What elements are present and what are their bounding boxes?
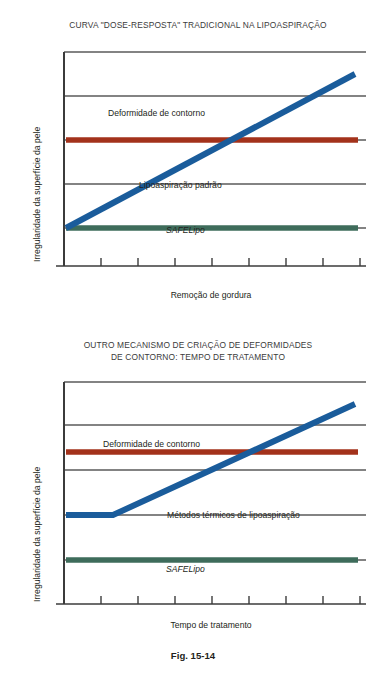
chart-panel-dose-response: CURVA "DOSE-RESPOSTA" TRADICIONAL NA LIP… [0,0,386,318]
series-label-safelipo: SAFELipo [166,564,205,574]
chart-panel-treatment-time: OUTRO MECANISMO DE CRIAÇÃO DE DEFORMIDAD… [0,320,386,680]
chart-title: CURVA "DOSE-RESPOSTA" TRADICIONAL NA LIP… [28,20,368,32]
series-line-standard-liposuction [66,74,355,228]
x-axis-ticks [64,596,360,604]
series-line-thermal-methods [66,404,355,515]
series-label-standard-liposuction: Lipoaspiração padrão [139,180,222,190]
chart-svg [56,378,366,610]
y-axis-title: Irregularidade da superfície da pele [32,467,42,602]
figure-caption: Fig. 15-14 [0,650,386,661]
x-axis-title: Remoção de gordura [56,290,366,300]
series-label-safelipo: SAFELipo [166,225,205,235]
series-label-contour-deformity: Deformidade de contorno [108,108,205,118]
y-axis-title: Irregularidade da superfície da pele [32,127,42,262]
plot-area [56,378,366,610]
chart-svg [56,48,366,270]
series-label-thermal-methods: Métodos térmicos de lipoaspiração [167,510,300,520]
plot-area [56,48,366,270]
x-axis-ticks [64,258,360,266]
chart-title: OUTRO MECANISMO DE CRIAÇÃO DE DEFORMIDAD… [28,340,368,363]
figure-15-14: CURVA "DOSE-RESPOSTA" TRADICIONAL NA LIP… [0,0,386,680]
x-axis-title: Tempo de tratamento [56,620,366,630]
series-label-contour-deformity: Deformidade de contorno [103,439,200,449]
